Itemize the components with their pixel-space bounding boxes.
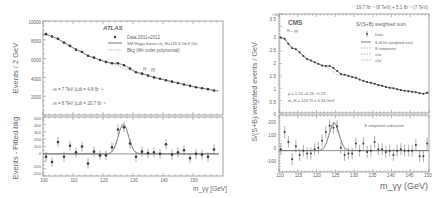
data-point: [347, 75, 349, 77]
cms-legend-title: S/(S+B) weighted sum: [356, 21, 406, 27]
data-point: [51, 35, 54, 38]
residual-point: [45, 156, 48, 159]
atlas-title: ATLAS: [102, 25, 123, 31]
data-point: [419, 92, 421, 94]
cms-yticks-top: 0 0.5 1 1.5 2 2.5 3 3.5: [270, 17, 277, 117]
residual-point: [344, 154, 346, 156]
residual-point: [141, 150, 144, 153]
data-point: [366, 81, 368, 83]
residual-point: [165, 143, 168, 146]
residual-point: [329, 125, 331, 127]
data-point: [63, 41, 66, 44]
cms-mu-hat: μ̂ = 1.14 +0.26 −0.23: [288, 91, 326, 96]
data-point: [291, 47, 293, 49]
data-point: [195, 86, 198, 89]
residual-point: [280, 148, 282, 150]
svg-text:140: 140: [160, 178, 168, 183]
cms-legend-1sigma: ±1σ: [375, 53, 382, 57]
data-point: [287, 43, 289, 45]
svg-text:3.5: 3.5: [270, 17, 277, 22]
svg-text:-100: -100: [267, 159, 277, 164]
data-point: [400, 89, 402, 91]
residual-point: [359, 150, 361, 152]
svg-text:120: 120: [313, 173, 321, 178]
data-point: [153, 76, 156, 79]
data-point: [171, 80, 174, 83]
residual-point: [422, 155, 424, 157]
svg-text:135: 135: [368, 173, 376, 178]
svg-text:150: 150: [424, 173, 432, 178]
data-point: [280, 37, 282, 39]
data-point: [336, 70, 338, 72]
data-point: [411, 91, 413, 93]
residual-point: [63, 156, 66, 159]
svg-text:150: 150: [190, 178, 198, 183]
atlas-ylabel-top: Events / 2 GeV: [11, 43, 20, 93]
data-point: [177, 82, 180, 85]
data-point: [306, 58, 308, 60]
data-point: [325, 65, 327, 67]
svg-text:200: 200: [34, 137, 42, 142]
residual-point: [392, 154, 394, 156]
svg-text:200: 200: [268, 120, 276, 125]
atlas-legend-bkg: Bkg (4th order polynomial): [127, 48, 180, 53]
data-point: [213, 89, 216, 92]
svg-text:8000: 8000: [31, 39, 42, 44]
atlas-ylabel-bottom: Events - Fitted bkg: [11, 117, 20, 180]
data-point: [422, 93, 424, 95]
data-point: [355, 77, 357, 79]
data-point: [321, 64, 323, 66]
residual-point: [287, 141, 289, 143]
residual-point: [310, 152, 312, 154]
data-point: [302, 55, 304, 57]
residual-point: [370, 150, 372, 152]
data-point: [389, 87, 391, 89]
data-point: [159, 78, 162, 81]
residual-point: [177, 151, 180, 154]
residual-point: [81, 145, 84, 148]
residual-point: [135, 156, 138, 159]
cms-xticks: 110 115 120 125 130 135 140 145 150: [276, 173, 432, 178]
data-point: [381, 85, 383, 87]
residual-point: [355, 143, 357, 145]
residual-point: [284, 131, 286, 133]
data-point: [135, 71, 138, 74]
residual-point: [362, 143, 364, 145]
svg-text:110: 110: [70, 178, 78, 183]
svg-text:0: 0: [39, 151, 42, 156]
atlas-yticks-bottom: -200 -100 0 100 200 300 400 500: [33, 116, 42, 176]
cms-title: CMS: [288, 19, 303, 26]
residual-point: [299, 154, 301, 156]
data-point: [377, 84, 379, 86]
data-point: [147, 74, 150, 77]
svg-text:2: 2: [273, 61, 276, 66]
atlas-yticks-top: 2000 4000 6000 8000 10000: [28, 20, 41, 100]
data-point: [426, 92, 428, 94]
data-point: [317, 63, 319, 65]
residual-point: [171, 153, 174, 156]
svg-text:0: 0: [273, 112, 276, 117]
residual-point: [123, 126, 126, 129]
data-point: [99, 59, 102, 62]
data-point: [299, 51, 301, 53]
data-point: [129, 67, 132, 70]
cms-legend-bkg: B component: [375, 47, 396, 51]
atlas-lumi-7tev: √s = 7 TeV ∫Ldt = 4.8 fb⁻¹: [52, 87, 103, 92]
svg-text:145: 145: [405, 173, 413, 178]
residual-point: [99, 154, 102, 157]
data-point: [57, 38, 60, 41]
svg-text:100: 100: [268, 133, 276, 138]
residual-point: [411, 150, 413, 152]
data-point: [207, 88, 210, 91]
chart-canvas: Events / 2 GeV Events - Fitted bkg 2000 …: [0, 0, 438, 198]
data-point: [123, 64, 126, 67]
residual-point: [407, 150, 409, 152]
data-point: [284, 38, 286, 40]
svg-text:1.5: 1.5: [270, 74, 277, 79]
svg-text:2000: 2000: [31, 95, 42, 100]
residual-point: [396, 150, 398, 152]
atlas-plot: Events / 2 GeV Events - Fitted bkg 2000 …: [11, 20, 227, 193]
residual-point: [183, 149, 186, 152]
svg-text:140: 140: [387, 173, 395, 178]
cms-legend-data: Data: [375, 33, 384, 37]
